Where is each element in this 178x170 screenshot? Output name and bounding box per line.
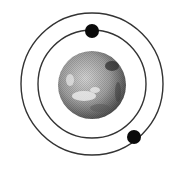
planet [58,51,126,119]
satellite-top [85,24,99,38]
planetary-orbit-diagram [0,0,178,170]
satellite-bottom-right [127,130,141,144]
